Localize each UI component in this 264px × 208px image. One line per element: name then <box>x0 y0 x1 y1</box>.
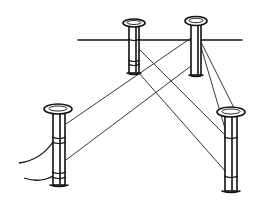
front-right-post <box>217 107 245 193</box>
post-and-string-illustration <box>0 0 264 208</box>
left-post <box>44 104 72 187</box>
back-left-post <box>123 19 145 75</box>
loose-rope-ends <box>19 142 53 180</box>
strings <box>66 38 236 172</box>
illustration-canvas <box>0 0 264 208</box>
